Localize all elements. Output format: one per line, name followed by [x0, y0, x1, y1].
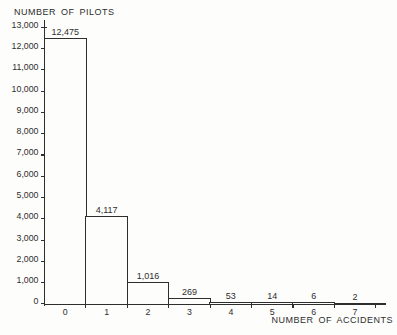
- bar: [85, 216, 128, 305]
- y-tick-label: 5,000: [0, 190, 39, 201]
- plot-area: 01,0002,0003,0004,0005,0006,0007,0008,00…: [0, 0, 397, 335]
- y-tick-label: 13,000: [0, 20, 39, 31]
- bar-value-label: 2: [325, 292, 385, 303]
- x-tick-label: 2: [133, 307, 163, 318]
- y-tick-label: 6,000: [0, 169, 39, 180]
- x-tick-label: 1: [92, 307, 122, 318]
- y-tick-label: 0: [0, 296, 39, 307]
- bar-value-label: 4,117: [77, 205, 137, 216]
- x-tick-label: 3: [174, 307, 204, 318]
- y-tick-label: 8,000: [0, 126, 39, 137]
- bar: [44, 38, 87, 304]
- y-tick-label: 10,000: [0, 84, 39, 95]
- y-tick-label: 4,000: [0, 211, 39, 222]
- pilots-accidents-histogram: NUMBER OF PILOTS 01,0002,0003,0004,0005,…: [0, 0, 397, 335]
- y-tick-label: 3,000: [0, 233, 39, 244]
- bar-value-label: 1,016: [118, 271, 178, 282]
- bar-value-label: 12,475: [35, 27, 95, 38]
- y-tick-label: 11,000: [0, 62, 39, 73]
- bar: [251, 302, 294, 305]
- x-tick-label: 4: [216, 307, 246, 318]
- y-tick-label: 2,000: [0, 254, 39, 265]
- y-tick-label: 7,000: [0, 147, 39, 158]
- y-tick-label: 1,000: [0, 275, 39, 286]
- y-tick-label: 12,000: [0, 41, 39, 52]
- bar: [209, 302, 252, 305]
- x-axis-title: NUMBER OF ACCIDENTS: [270, 315, 393, 326]
- bar: [334, 303, 377, 305]
- x-tick-label: 0: [50, 307, 80, 318]
- y-tick-label: 9,000: [0, 105, 39, 116]
